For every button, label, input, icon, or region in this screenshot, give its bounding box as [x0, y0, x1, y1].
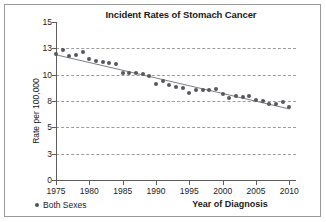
y-tick-label-3: 3: [28, 150, 52, 158]
data-point: [94, 59, 98, 63]
data-point: [267, 102, 271, 106]
x-tick-mark-1975: [56, 180, 57, 185]
x-tick-mark-1990: [156, 180, 157, 185]
y-tick-label-15: 15: [28, 18, 52, 26]
gridline-10: [56, 75, 296, 76]
data-point: [254, 98, 258, 102]
y-tick-mark-15: [52, 22, 57, 23]
x-axis-label: Year of Diagnosis: [150, 199, 310, 209]
chart-legend: Both Sexes: [35, 200, 86, 210]
x-tick-mark-1985: [123, 180, 124, 185]
y-tick-mark-5: [52, 127, 57, 128]
data-point: [134, 71, 138, 75]
data-point: [261, 99, 265, 103]
data-point: [154, 82, 158, 86]
y-tick-mark-8: [52, 101, 57, 102]
legend-label-both-sexes: Both Sexes: [43, 200, 86, 210]
y-axis-tick-labels: 0358101315: [24, 22, 52, 180]
data-point: [161, 79, 165, 83]
data-point: [281, 100, 285, 104]
y-tick-label-13: 13: [28, 44, 52, 52]
data-point: [174, 85, 178, 89]
x-tick-mark-1980: [89, 180, 90, 185]
series-marker-dot-icon: [35, 203, 39, 207]
x-axis-line: [56, 180, 296, 181]
chart-title: Incident Rates of Stomach Cancer: [56, 9, 306, 20]
data-point: [241, 95, 245, 99]
x-tick-mark-2010: [289, 180, 290, 185]
gridline-5: [56, 127, 296, 128]
data-point: [274, 102, 278, 106]
y-tick-label-10: 10: [28, 71, 52, 79]
data-point: [181, 86, 185, 90]
x-tick-mark-2000: [223, 180, 224, 185]
gridline-8: [56, 101, 296, 102]
y-tick-label-0: 0: [28, 176, 52, 184]
y-tick-label-5: 5: [28, 123, 52, 131]
y-tick-mark-13: [52, 48, 57, 49]
data-point: [234, 94, 238, 98]
x-tick-mark-2005: [256, 180, 257, 185]
gridline-13: [56, 48, 296, 49]
y-tick-mark-3: [52, 154, 57, 155]
data-point: [61, 48, 65, 52]
data-point: [141, 72, 145, 76]
y-tick-label-8: 8: [28, 97, 52, 105]
gridline-3: [56, 154, 296, 155]
data-point: [121, 71, 125, 75]
data-point: [81, 50, 85, 54]
plot-area: [56, 22, 296, 180]
chart-figure: Incident Rates of Stomach Cancer Rate pe…: [0, 0, 326, 222]
x-tick-label-2010: 2010: [269, 186, 309, 196]
x-tick-mark-1995: [189, 180, 190, 185]
y-tick-mark-10: [52, 75, 57, 76]
